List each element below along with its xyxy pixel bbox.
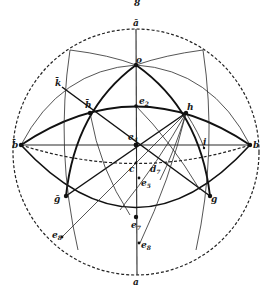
point-b-right (248, 143, 252, 147)
arc-h-e8 (140, 113, 186, 243)
label-e5: e5 (141, 178, 151, 189)
point-b-left (19, 143, 23, 147)
point-c (135, 162, 138, 165)
point-g-left (64, 194, 68, 198)
label-o: o (136, 55, 142, 65)
label-c: c (129, 164, 135, 174)
label-a: a (133, 277, 139, 287)
label-e8: e8 (141, 240, 152, 251)
label-e2: e2 (139, 96, 149, 107)
point-h-left (88, 111, 92, 115)
label-b-right: b (253, 140, 259, 150)
label-e8-prime: e8 (52, 230, 63, 241)
label-b-left: b̄ (12, 139, 18, 150)
label-a-bar: ā (133, 18, 139, 28)
arc-h-2 (160, 113, 186, 180)
stereographic-projection-diagram: 8 ā o e2 e4 c d7 e5 e7 e (0, 0, 273, 288)
label-e7: e7 (131, 220, 142, 231)
label-i: i (203, 137, 207, 147)
label-g-left: ḡ (54, 194, 60, 204)
meridian-right (196, 50, 209, 250)
label-k: k̄ (55, 77, 61, 88)
line-h-e8prime (62, 113, 186, 237)
point-e4 (134, 143, 139, 148)
point-e5 (138, 177, 141, 180)
point-i (203, 147, 205, 149)
point-e8 (138, 242, 141, 245)
label-g-right: g (211, 194, 217, 204)
point-e2 (134, 104, 138, 108)
arc-o-g-left (66, 65, 136, 196)
point-e7 (134, 215, 138, 219)
label-h-left: h̄ (85, 99, 92, 110)
caption-mark: 8 (134, 0, 141, 8)
line-h-g (66, 113, 186, 196)
label-d7: d7 (150, 164, 161, 175)
label-h-right: h (187, 102, 194, 112)
